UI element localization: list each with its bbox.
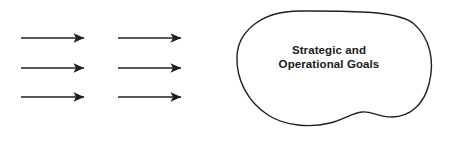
diagram-canvas: Strategic and Operational Goals: [0, 0, 453, 143]
goals-label-line-2: Operational Goals: [279, 58, 380, 70]
right-arrow-column: [118, 38, 181, 97]
left-arrow-column: [21, 38, 84, 97]
goals-label-line-1: Strategic and: [292, 44, 366, 56]
diagram-graphic: Strategic and Operational Goals: [0, 0, 453, 143]
